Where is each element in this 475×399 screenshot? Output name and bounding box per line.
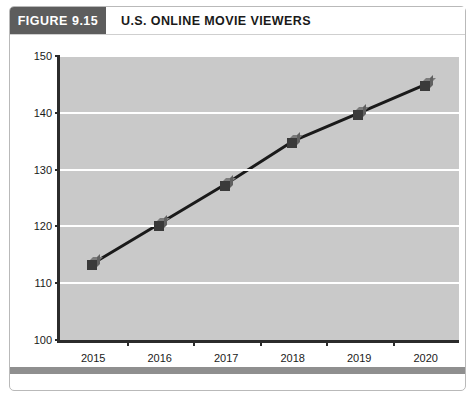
chart-region: 100110120130140150 201520162017201820192… — [10, 35, 465, 365]
x-axis-tick — [260, 340, 262, 346]
marker-front-face — [154, 221, 164, 231]
marker-side-face — [230, 175, 233, 188]
gridline — [60, 225, 459, 227]
data-point-marker — [87, 257, 100, 270]
data-point-marker — [287, 135, 300, 148]
y-axis-tick — [55, 225, 60, 227]
marker-front-face — [420, 81, 430, 91]
marker-front-face — [287, 138, 297, 148]
marker-side-face — [97, 254, 100, 267]
data-point-marker — [220, 178, 233, 191]
y-axis-tick-label: 110 — [12, 277, 52, 289]
marker-side-face — [164, 215, 167, 228]
x-axis-tick-label: 2018 — [263, 352, 323, 364]
marker-front-face — [353, 110, 363, 120]
figure-header: FIGURE 9.15 U.S. ONLINE MOVIE VIEWERS — [10, 7, 465, 34]
data-point-marker — [353, 107, 366, 120]
figure-number-badge: FIGURE 9.15 — [10, 7, 106, 34]
gridline — [60, 55, 459, 57]
y-axis-labels: 100110120130140150 — [10, 56, 52, 340]
data-point-marker — [154, 218, 167, 231]
page-title: U.S. ONLINE MOVIE VIEWERS — [121, 14, 311, 28]
data-point-marker — [420, 78, 433, 91]
line-series-svg — [60, 56, 459, 340]
figure-title-container: U.S. ONLINE MOVIE VIEWERS — [106, 7, 465, 34]
x-axis-tick-label: 2017 — [196, 352, 256, 364]
plot-inner: 201520162017201820192020 — [60, 56, 459, 340]
x-axis-tick-label: 2019 — [329, 352, 389, 364]
figure-footer-bar — [10, 367, 465, 374]
y-axis-tick-label: 150 — [12, 50, 52, 62]
x-axis-tick-label: 2015 — [63, 352, 123, 364]
gridline — [60, 169, 459, 171]
y-axis-tick — [55, 55, 60, 57]
marker-side-face — [297, 132, 300, 145]
y-axis-tick-label: 130 — [12, 164, 52, 176]
x-axis-tick — [127, 340, 129, 346]
gridline — [60, 112, 459, 114]
x-axis-tick-label: 2016 — [130, 352, 190, 364]
y-axis-tick — [55, 282, 60, 284]
y-axis-tick-label: 140 — [12, 107, 52, 119]
x-axis-tick-label: 2020 — [396, 352, 456, 364]
x-axis-tick — [326, 340, 328, 346]
marker-front-face — [220, 181, 230, 191]
marker-front-face — [87, 260, 97, 270]
y-axis-tick — [55, 339, 60, 341]
plot-area: 201520162017201820192020 — [57, 56, 459, 343]
y-axis-tick-label: 100 — [12, 334, 52, 346]
marker-side-face — [430, 75, 433, 88]
figure-card: FIGURE 9.15 U.S. ONLINE MOVIE VIEWERS 10… — [9, 6, 466, 391]
y-axis-tick-label: 120 — [12, 220, 52, 232]
marker-side-face — [363, 104, 366, 117]
y-axis-tick — [55, 112, 60, 114]
x-axis-tick — [193, 340, 195, 346]
gridline — [60, 282, 459, 284]
y-axis-tick — [55, 169, 60, 171]
x-axis-tick — [393, 340, 395, 346]
